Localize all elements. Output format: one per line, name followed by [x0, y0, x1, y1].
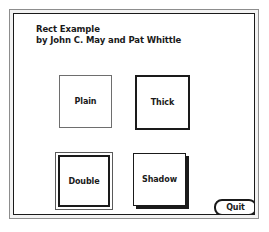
rect-sample-double-label: Double [68, 177, 99, 186]
application-window: Rect Example by John C. May and Pat Whit… [9, 9, 259, 219]
rect-sample-plain[interactable]: Plain [59, 75, 112, 128]
rect-sample-thick[interactable]: Thick [135, 75, 190, 130]
rect-sample-shadow[interactable]: Shadow [133, 153, 186, 206]
page-title: Rect Example by John C. May and Pat Whit… [36, 24, 181, 45]
rect-sample-thick-label: Thick [151, 98, 174, 107]
rect-sample-double-inner-border: Double [58, 155, 110, 207]
window-content-area: Rect Example by John C. May and Pat Whit… [13, 13, 255, 215]
rect-sample-double[interactable]: Double [55, 152, 113, 210]
title-line-primary: Rect Example [36, 24, 181, 35]
title-line-byline: by John C. May and Pat Whittle [36, 35, 181, 46]
quit-button[interactable]: Quit [214, 199, 255, 215]
rect-sample-shadow-label: Shadow [142, 175, 177, 184]
quit-button-label: Quit [226, 203, 245, 212]
rect-sample-plain-label: Plain [75, 97, 97, 106]
